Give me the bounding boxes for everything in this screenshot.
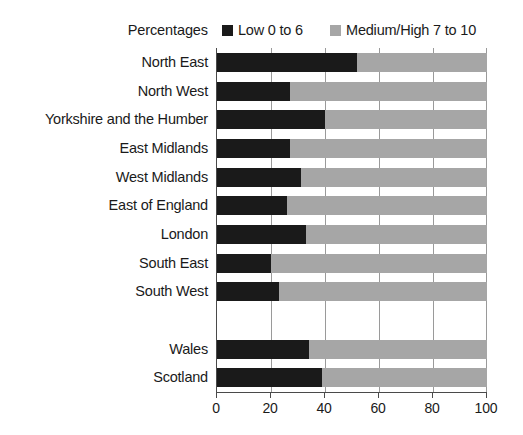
legend-label-medium-high: Medium/High 7 to 10 [346, 20, 476, 40]
bar-segment-low [217, 139, 290, 158]
bar-row [217, 110, 487, 129]
bar-row [217, 340, 487, 359]
x-tick-20 [270, 392, 271, 398]
category-label: Yorkshire and the Humber [0, 111, 208, 128]
bar-row [217, 225, 487, 244]
category-label: Scotland [0, 369, 208, 386]
bar-segment-medium-high [279, 282, 487, 301]
bar-segment-low [217, 225, 306, 244]
x-axis-line [216, 392, 487, 393]
bar-segment-medium-high [325, 110, 487, 129]
bar-segment-low [217, 82, 290, 101]
bar-segment-low [217, 53, 357, 72]
x-tick-label-100: 100 [466, 399, 506, 417]
x-tick-label-60: 60 [358, 399, 398, 417]
bar-segment-low [217, 282, 279, 301]
legend-swatch-medium-high [330, 25, 341, 36]
plot-area [216, 48, 486, 392]
bar-segment-medium-high [301, 168, 487, 187]
bar-segment-medium-high [309, 340, 487, 359]
category-label: East Midlands [0, 140, 208, 157]
category-label: South West [0, 283, 208, 300]
x-tick-80 [432, 392, 433, 398]
x-tick-label-0: 0 [196, 399, 236, 417]
bar-segment-medium-high [357, 53, 487, 72]
x-tick-60 [378, 392, 379, 398]
bar-row [217, 196, 487, 215]
category-label: North East [0, 54, 208, 71]
stacked-bar-chart: Percentages Low 0 to 6 Medium/High 7 to … [0, 0, 523, 435]
category-label: South East [0, 255, 208, 272]
x-tick-label-20: 20 [250, 399, 290, 417]
bar-row [217, 282, 487, 301]
bar-segment-medium-high [290, 82, 487, 101]
bar-segment-low [217, 168, 301, 187]
bar-row [217, 53, 487, 72]
category-label: East of England [0, 197, 208, 214]
legend-label-low: Low 0 to 6 [238, 20, 303, 40]
bar-row [217, 139, 487, 158]
legend-item-medium-high: Medium/High 7 to 10 [330, 20, 476, 40]
chart-legend: Percentages Low 0 to 6 Medium/High 7 to … [0, 20, 523, 42]
legend-item-low: Low 0 to 6 [222, 20, 303, 40]
bar-segment-low [217, 254, 271, 273]
bar-segment-medium-high [290, 139, 487, 158]
bar-row [217, 254, 487, 273]
x-tick-label-40: 40 [304, 399, 344, 417]
category-label: London [0, 226, 208, 243]
bar-segment-low [217, 196, 287, 215]
bar-segment-low [217, 368, 322, 387]
x-tick-100 [486, 392, 487, 398]
category-label: West Midlands [0, 169, 208, 186]
x-tick-label-80: 80 [412, 399, 452, 417]
bar-row [217, 368, 487, 387]
x-tick-40 [324, 392, 325, 398]
category-label: North West [0, 83, 208, 100]
bar-segment-medium-high [271, 254, 487, 273]
bar-segment-medium-high [287, 196, 487, 215]
bar-segment-low [217, 110, 325, 129]
x-tick-0 [216, 392, 217, 398]
chart-axis-title: Percentages [0, 20, 208, 40]
bar-row [217, 82, 487, 101]
bar-segment-low [217, 340, 309, 359]
bar-segment-medium-high [306, 225, 487, 244]
legend-swatch-low [222, 25, 233, 36]
bar-segment-medium-high [322, 368, 487, 387]
bar-row [217, 168, 487, 187]
category-label: Wales [0, 341, 208, 358]
